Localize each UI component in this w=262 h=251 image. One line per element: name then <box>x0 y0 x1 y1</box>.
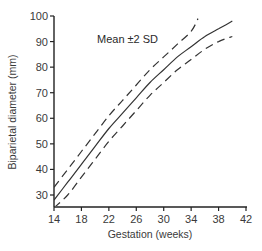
legend-annotation: Mean ±2 SD <box>97 33 158 45</box>
y-axis-label: Biparietal diameter (mm) <box>6 55 18 170</box>
x-ticks: 1418222630343842 <box>48 207 252 225</box>
x-tick-label: 26 <box>130 213 142 225</box>
y-tick-label: 60 <box>36 112 48 124</box>
y-tick-label: 30 <box>36 189 48 201</box>
x-axis-label: Gestation (weeks) <box>108 228 193 240</box>
x-tick-label: 38 <box>212 213 224 225</box>
y-tick-label: 40 <box>36 163 48 175</box>
x-tick-label: 42 <box>240 213 252 225</box>
y-ticks: 30405060708090100 <box>30 10 54 201</box>
mean-curve <box>54 21 232 200</box>
bpd-growth-chart: 30405060708090100 1418222630343842 Mean … <box>0 0 262 251</box>
y-tick-label: 80 <box>36 61 48 73</box>
x-tick-label: 34 <box>185 213 197 225</box>
x-tick-label: 18 <box>75 213 87 225</box>
y-tick-label: 100 <box>30 10 48 22</box>
y-tick-label: 70 <box>36 87 48 99</box>
y-tick-label: 50 <box>36 138 48 150</box>
x-tick-label: 30 <box>158 213 170 225</box>
x-tick-label: 14 <box>48 213 60 225</box>
x-tick-label: 22 <box>103 213 115 225</box>
lower-2sd-curve <box>54 37 232 208</box>
curves <box>54 19 232 208</box>
y-tick-label: 90 <box>36 36 48 48</box>
